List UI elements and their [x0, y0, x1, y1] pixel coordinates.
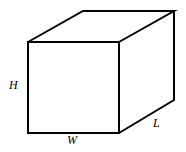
front-face: [28, 42, 119, 133]
length-label: L: [153, 117, 160, 129]
right-face-edges: [119, 11, 174, 133]
height-label: H: [9, 79, 18, 91]
width-label: W: [67, 134, 77, 146]
top-face-edges: [28, 11, 174, 42]
